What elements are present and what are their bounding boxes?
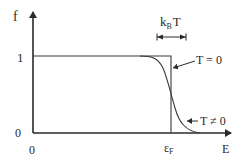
y-tick-1: 1 [17, 50, 24, 65]
y-axis-label: f [13, 9, 18, 24]
tnonzero-label: T ≠ 0 [200, 114, 226, 128]
t0-label: T = 0 [196, 53, 222, 67]
fermi-dirac-diagram: f 1 0 0 εF E kBT T = 0 T ≠ 0 [0, 0, 244, 161]
fermi-energy-label: εF [164, 141, 174, 156]
y-tick-0: 0 [15, 126, 21, 140]
x-axis-label: E [222, 142, 229, 156]
kbt-arrow-right-icon [180, 35, 186, 40]
kbt-arrow-left-icon [157, 35, 163, 40]
t0-pointer-arrow [173, 61, 195, 68]
step-curve-t0 [33, 56, 171, 133]
x-origin-label: 0 [29, 143, 35, 157]
kbt-label: kBT [160, 14, 181, 31]
